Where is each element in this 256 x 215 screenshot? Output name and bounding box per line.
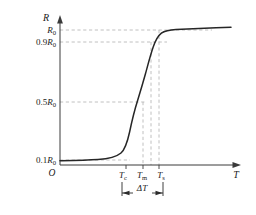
y-axis-arrowhead <box>57 15 63 24</box>
y-tick-r0-5-subscript: 0 <box>53 101 57 108</box>
x-axis-label: T <box>233 169 240 180</box>
axes-group <box>57 15 241 168</box>
delta-variable: T <box>142 183 148 193</box>
x-tick-label-tc: Tc <box>119 170 127 181</box>
x-tick-ts-subscript: s <box>162 174 165 181</box>
resistance-temperature-chart: R T O R0 0.9R0 0.5R0 0.1R0 Tc <box>0 0 256 215</box>
x-tick-labels: Tc Tm Ts <box>119 170 165 181</box>
y-tick-label-r0-1: 0.1R0 <box>36 155 57 166</box>
origin-label: O <box>49 168 56 178</box>
y-tick-r0-5-number: 0.5 <box>36 97 48 107</box>
y-tick-r0-9-number: 0.9 <box>36 37 48 47</box>
horizontal-gridlines <box>60 30 212 160</box>
x-tick-tc-subscript: c <box>124 174 127 181</box>
x-tick-marks <box>126 165 159 169</box>
y-tick-label-r0-5: 0.5R0 <box>36 97 57 108</box>
y-axis-label: R <box>42 12 49 23</box>
y-tick-r0-1-number: 0.1 <box>36 155 47 165</box>
y-tick-label-r0-9: 0.9R0 <box>36 37 57 48</box>
x-axis-arrowhead <box>233 162 242 168</box>
y-tick-r0-9-subscript: 0 <box>53 41 57 48</box>
y-tick-label-r0: R0 <box>46 25 57 36</box>
x-tick-tm-subscript: m <box>142 174 148 181</box>
resistance-curve <box>60 27 231 161</box>
figure-root: R T O R0 0.9R0 0.5R0 0.1R0 Tc <box>0 0 256 215</box>
x-tick-label-ts: Ts <box>157 170 165 181</box>
span-arrowhead-left <box>123 191 130 196</box>
span-arrowhead-right <box>156 191 163 196</box>
y-tick-r0-subscript: 0 <box>53 29 57 36</box>
delta-t-label: ΔT <box>136 183 148 193</box>
y-tick-labels: R0 0.9R0 0.5R0 0.1R0 <box>36 25 57 166</box>
y-tick-r0-1-subscript: 0 <box>53 159 57 166</box>
vertical-guides <box>143 30 159 165</box>
x-tick-label-tm: Tm <box>137 170 148 181</box>
